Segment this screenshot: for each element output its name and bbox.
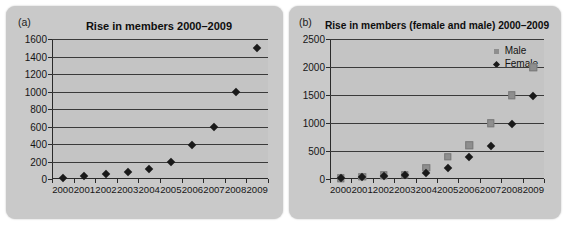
data-point xyxy=(530,63,538,71)
x-axis-tick-mark xyxy=(544,179,545,183)
figure-container: (a) Rise in members 2000–2009 0200400600… xyxy=(0,0,571,229)
x-axis-tick-mark xyxy=(268,179,269,183)
x-axis-tick-label: 2009 xyxy=(247,184,268,195)
plot-area-a: 0200400600800100012001400160020002001200… xyxy=(52,39,268,179)
gridline xyxy=(330,39,544,40)
x-axis-tick-label: 2003 xyxy=(394,184,415,195)
chart-panel-b: (b) Rise in members (female and male) 20… xyxy=(289,6,561,219)
x-axis-tick-mark xyxy=(160,179,161,183)
data-point xyxy=(487,119,495,127)
x-axis-tick-mark xyxy=(373,179,374,183)
x-axis-tick-label: 2009 xyxy=(523,184,544,195)
x-axis-tick-mark xyxy=(52,179,53,183)
x-axis-tick-label: 2001 xyxy=(74,184,95,195)
y-axis-tick-mark xyxy=(326,95,330,96)
y-axis-tick-label: 1000 xyxy=(25,86,47,97)
x-axis-tick-label: 2005 xyxy=(437,184,458,195)
chart-title-a: Rise in members 2000–2009 xyxy=(50,20,268,32)
x-axis-tick-mark xyxy=(117,179,118,183)
x-axis-tick-mark xyxy=(203,179,204,183)
chart-panel-a: (a) Rise in members 2000–2009 0200400600… xyxy=(6,6,283,219)
y-axis-tick-label: 1600 xyxy=(25,34,47,45)
y-axis-tick-label: 400 xyxy=(30,139,47,150)
x-axis-tick-mark xyxy=(74,179,75,183)
x-axis-tick-label: 2007 xyxy=(480,184,501,195)
gridline xyxy=(52,144,268,145)
y-axis-tick-mark xyxy=(48,39,52,40)
panel-label-b: (b) xyxy=(299,16,312,28)
x-axis-tick-mark xyxy=(480,179,481,183)
x-axis-tick-mark xyxy=(523,179,524,183)
x-axis-tick-label: 2000 xyxy=(330,184,351,195)
y-axis-tick-label: 0 xyxy=(319,174,325,185)
x-axis-tick-label: 2006 xyxy=(458,184,479,195)
y-axis-tick-label: 1400 xyxy=(25,51,47,62)
x-axis-tick-mark xyxy=(394,179,395,183)
x-axis-tick-label: 2007 xyxy=(203,184,224,195)
gridline xyxy=(52,127,268,128)
x-axis-tick-mark xyxy=(458,179,459,183)
y-axis-tick-label: 2000 xyxy=(303,62,325,73)
gridline xyxy=(52,109,268,110)
y-axis-tick-mark xyxy=(48,109,52,110)
gridline xyxy=(52,162,268,163)
gridline xyxy=(52,39,268,40)
y-axis-tick-label: 500 xyxy=(308,146,325,157)
y-axis-tick-mark xyxy=(48,127,52,128)
x-axis-tick-mark xyxy=(95,179,96,183)
y-axis-tick-label: 1500 xyxy=(303,90,325,101)
plot-area-b: MaleFemale 05001000150020002500200020012… xyxy=(330,39,544,179)
gridline xyxy=(330,67,544,68)
chart-title-b: Rise in members (female and male) 2000–2… xyxy=(317,20,557,31)
x-axis-tick-label: 2004 xyxy=(416,184,437,195)
x-axis-tick-mark xyxy=(225,179,226,183)
x-axis-tick-label: 2005 xyxy=(160,184,181,195)
x-axis-tick-label: 2004 xyxy=(139,184,160,195)
x-axis-tick-label: 2006 xyxy=(182,184,203,195)
x-axis-tick-mark xyxy=(330,179,331,183)
y-axis-tick-label: 1000 xyxy=(303,118,325,129)
y-axis-tick-mark xyxy=(48,144,52,145)
x-axis-tick-mark xyxy=(437,179,438,183)
y-axis-tick-label: 200 xyxy=(30,156,47,167)
x-axis-tick-label: 2003 xyxy=(117,184,138,195)
x-axis-tick-mark xyxy=(138,179,139,183)
y-axis-tick-mark xyxy=(326,67,330,68)
y-axis-tick-label: 600 xyxy=(30,121,47,132)
data-point xyxy=(508,91,516,99)
y-axis-tick-mark xyxy=(48,92,52,93)
y-axis-tick-mark xyxy=(326,39,330,40)
legend-square-icon xyxy=(491,49,502,54)
gridline xyxy=(52,74,268,75)
x-axis-tick-label: 2008 xyxy=(225,184,246,195)
panel-label-a: (a) xyxy=(18,16,31,28)
data-point xyxy=(444,153,452,161)
y-axis-tick-label: 2500 xyxy=(303,34,325,45)
gridline xyxy=(330,151,544,152)
legend-item: Male xyxy=(491,45,538,57)
x-axis-tick-mark xyxy=(182,179,183,183)
y-axis-tick-mark xyxy=(48,74,52,75)
x-axis-tick-label: 2008 xyxy=(501,184,522,195)
y-axis-tick-label: 800 xyxy=(30,104,47,115)
legend-label: Male xyxy=(505,45,527,57)
y-axis-tick-label: 0 xyxy=(41,174,47,185)
x-axis-tick-mark xyxy=(351,179,352,183)
x-axis-tick-mark xyxy=(246,179,247,183)
x-axis-tick-label: 2002 xyxy=(373,184,394,195)
y-axis-tick-mark xyxy=(326,123,330,124)
legend-diamond-icon xyxy=(491,62,502,67)
y-axis-tick-label: 1200 xyxy=(25,69,47,80)
x-axis-tick-mark xyxy=(501,179,502,183)
x-axis-tick-label: 2002 xyxy=(95,184,116,195)
data-point xyxy=(465,142,473,150)
x-axis-tick-mark xyxy=(416,179,417,183)
x-axis-tick-label: 2000 xyxy=(52,184,73,195)
gridline xyxy=(52,57,268,58)
x-axis-tick-label: 2001 xyxy=(351,184,372,195)
y-axis-tick-mark xyxy=(326,151,330,152)
y-axis-tick-mark xyxy=(48,57,52,58)
y-axis-tick-mark xyxy=(48,162,52,163)
